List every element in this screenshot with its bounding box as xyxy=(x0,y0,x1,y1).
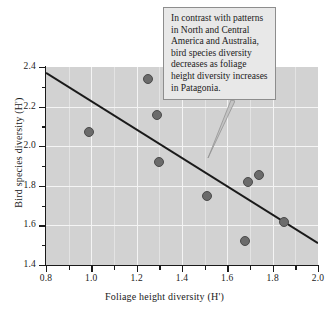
x-tick-major xyxy=(182,266,183,272)
x-axis-label: Foliage height diversity (H') xyxy=(0,291,329,302)
x-tick-minor xyxy=(69,266,70,270)
x-tick-label: 1.6 xyxy=(207,273,247,283)
y-tick-label: 1.6 xyxy=(8,219,36,229)
gridline-vertical-minor xyxy=(69,67,70,265)
y-tick-minor xyxy=(42,166,46,167)
gridline-vertical xyxy=(137,67,138,265)
y-tick-label: 2.0 xyxy=(8,140,36,150)
x-tick-label: 1.0 xyxy=(71,273,111,283)
y-tick-label: 2.4 xyxy=(8,61,36,71)
annotation-text: In contrast with patterns in North and C… xyxy=(171,13,268,93)
y-tick-minor xyxy=(42,245,46,246)
annotation-callout: In contrast with patterns in North and C… xyxy=(163,7,276,100)
data-point xyxy=(154,157,164,167)
y-tick-label: 2.2 xyxy=(8,101,36,111)
data-point xyxy=(240,236,250,246)
annotation-leader-line xyxy=(175,100,235,162)
x-tick-minor xyxy=(250,266,251,270)
x-tick-major xyxy=(91,266,92,272)
y-tick-major xyxy=(39,146,46,147)
x-tick-minor xyxy=(295,266,296,270)
gridline-horizontal xyxy=(46,225,318,226)
gridline-horizontal xyxy=(46,186,318,187)
x-tick-major xyxy=(318,266,319,272)
data-point xyxy=(143,74,153,84)
x-tick-minor xyxy=(159,266,160,270)
x-tick-minor xyxy=(205,266,206,270)
y-tick-label: 1.8 xyxy=(8,180,36,190)
y-tick-major xyxy=(39,186,46,187)
x-tick-major xyxy=(46,266,47,272)
y-tick-major xyxy=(39,225,46,226)
data-point xyxy=(279,217,289,227)
x-tick-label: 1.2 xyxy=(117,273,157,283)
data-point xyxy=(84,127,94,137)
y-tick-major xyxy=(39,107,46,108)
x-tick-label: 2.0 xyxy=(298,273,329,283)
x-tick-label: 0.8 xyxy=(26,273,66,283)
x-tick-minor xyxy=(114,266,115,270)
y-tick-minor xyxy=(42,126,46,127)
gridline-vertical xyxy=(91,67,92,265)
y-tick-major xyxy=(39,67,46,68)
data-point xyxy=(152,110,162,120)
x-tick-label: 1.8 xyxy=(253,273,293,283)
y-tick-minor xyxy=(42,87,46,88)
x-tick-major xyxy=(273,266,274,272)
gridline-vertical-minor xyxy=(295,67,296,265)
data-point xyxy=(254,170,264,180)
data-point xyxy=(202,191,212,201)
x-tick-major xyxy=(137,266,138,272)
x-tick-label: 1.4 xyxy=(162,273,202,283)
y-tick-minor xyxy=(42,206,46,207)
data-point xyxy=(243,177,253,187)
y-tick-label: 1.4 xyxy=(8,259,36,269)
x-tick-major xyxy=(227,266,228,272)
gridline-vertical-minor xyxy=(114,67,115,265)
y-tick-major xyxy=(39,265,46,266)
scatter-plot-figure: Foliage height diversity (H') Bird speci… xyxy=(0,0,329,315)
